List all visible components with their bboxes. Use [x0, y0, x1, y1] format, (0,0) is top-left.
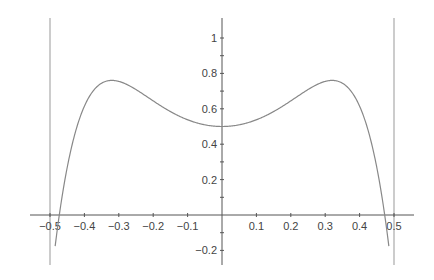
x-tick-label: 0.1 — [249, 220, 264, 232]
x-tick-label: 0.5 — [386, 220, 401, 232]
y-tick-label: 0.8 — [202, 67, 217, 79]
x-tick-label: 0.3 — [318, 220, 333, 232]
x-tick-label: −0.4 — [74, 220, 96, 232]
y-tick-label: 0.2 — [202, 174, 217, 186]
function-plot: −0.5−0.4−0.3−0.2−0.10.10.20.30.40.5 −0.2… — [0, 0, 434, 280]
x-axis-ticks: −0.5−0.4−0.3−0.2−0.10.10.20.30.40.5 — [39, 213, 402, 232]
x-tick-label: 0.2 — [283, 220, 298, 232]
x-tick-label: −0.3 — [108, 220, 130, 232]
x-tick-label: −0.1 — [177, 220, 199, 232]
x-tick-label: 0.4 — [352, 220, 367, 232]
y-tick-label: 0.4 — [202, 138, 217, 150]
y-axis-ticks: −0.20.20.40.60.81 — [195, 32, 224, 256]
x-tick-label: −0.2 — [142, 220, 164, 232]
y-tick-label: 1 — [211, 32, 217, 44]
y-tick-label: 0.6 — [202, 103, 217, 115]
y-tick-label: −0.2 — [195, 244, 217, 256]
